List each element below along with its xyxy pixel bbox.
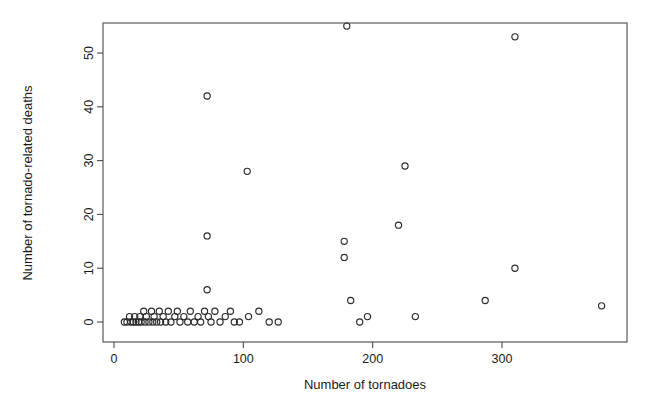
y-axis-ticks: 01020304050	[82, 46, 103, 325]
data-point	[344, 23, 350, 29]
x-tick-label: 0	[111, 352, 118, 366]
y-tick-label: 40	[82, 100, 96, 114]
data-point	[212, 308, 218, 314]
y-tick-label: 20	[82, 207, 96, 221]
scatter-plot-figure: 0100200300 01020304050 Number of tornado…	[0, 0, 648, 410]
data-point	[364, 314, 370, 320]
data-point	[204, 233, 210, 239]
y-tick-label: 30	[82, 154, 96, 168]
x-tick-label: 100	[233, 352, 254, 366]
y-axis-title: Number of tornado-related deaths	[20, 85, 35, 281]
data-point	[482, 297, 488, 303]
data-point	[227, 308, 233, 314]
y-tick-label: 0	[82, 318, 96, 325]
data-point	[341, 254, 347, 260]
data-point	[174, 308, 180, 314]
data-point	[208, 319, 214, 325]
data-point	[275, 319, 281, 325]
data-point	[357, 319, 363, 325]
x-axis-ticks: 0100200300	[111, 342, 513, 366]
data-point	[187, 308, 193, 314]
data-point	[222, 314, 228, 320]
plot-border	[103, 23, 627, 342]
x-axis-title: Number of tornadoes	[304, 377, 427, 392]
data-point	[341, 238, 347, 244]
x-tick-label: 200	[362, 352, 383, 366]
plot-frame	[103, 23, 627, 342]
data-point	[402, 163, 408, 169]
data-point	[512, 34, 518, 40]
data-point	[185, 319, 191, 325]
data-point	[412, 314, 418, 320]
y-tick-label: 50	[82, 46, 96, 60]
data-point	[198, 319, 204, 325]
data-point	[204, 93, 210, 99]
data-point	[512, 265, 518, 271]
data-point	[256, 308, 262, 314]
data-point	[598, 303, 604, 309]
data-point	[244, 168, 250, 174]
data-point	[217, 319, 223, 325]
plot-canvas: 0100200300 01020304050 Number of tornado…	[0, 0, 648, 410]
data-point-group	[121, 23, 604, 325]
data-point	[348, 297, 354, 303]
data-point	[165, 308, 171, 314]
x-tick-label: 300	[492, 352, 513, 366]
data-point	[266, 319, 272, 325]
data-point	[204, 287, 210, 293]
y-tick-label: 10	[82, 261, 96, 275]
data-point	[245, 314, 251, 320]
data-point	[395, 222, 401, 228]
